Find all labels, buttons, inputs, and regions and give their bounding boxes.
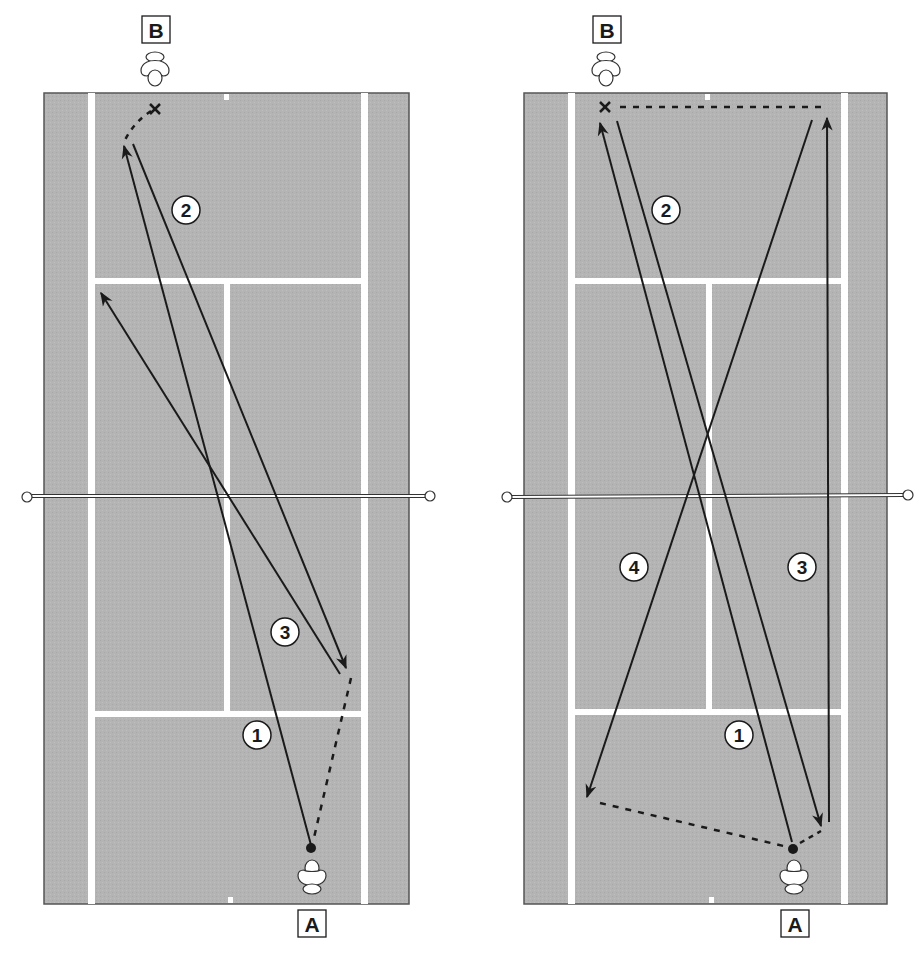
shot-number-badge: 4 [620, 553, 648, 581]
shot-number-badge: 3 [271, 618, 299, 646]
shot-number-badge: 3 [788, 553, 816, 581]
player-b-label: B [593, 16, 621, 43]
right-court-diagram: 2 4 3 1 B A [502, 16, 913, 937]
shot-number-badge: 2 [652, 196, 680, 224]
player-b-label: B [142, 16, 170, 43]
court-surface [44, 93, 409, 904]
left-court-diagram: 2 3 1 B A [22, 16, 435, 937]
player-a-label: A [298, 910, 326, 937]
ball-icon [788, 844, 798, 854]
player-a-label: A [781, 910, 809, 937]
svg-text:A: A [304, 913, 319, 936]
svg-text:B: B [599, 19, 614, 42]
svg-text:1: 1 [252, 725, 263, 746]
shot-number-badge: 1 [725, 721, 753, 749]
svg-text:B: B [148, 19, 163, 42]
shot-number-badge: 2 [172, 196, 200, 224]
svg-text:2: 2 [181, 200, 192, 221]
svg-text:1: 1 [734, 725, 745, 746]
svg-text:3: 3 [797, 557, 808, 578]
svg-text:2: 2 [661, 200, 672, 221]
shot-number-badge: 1 [243, 721, 271, 749]
player-b-icon [592, 52, 620, 86]
player-b-icon [141, 52, 169, 86]
ball-icon [306, 843, 316, 853]
svg-text:A: A [787, 913, 802, 936]
svg-text:3: 3 [280, 622, 291, 643]
tennis-drill-diagram: 2 3 1 B A [0, 0, 921, 964]
svg-text:4: 4 [629, 557, 640, 578]
